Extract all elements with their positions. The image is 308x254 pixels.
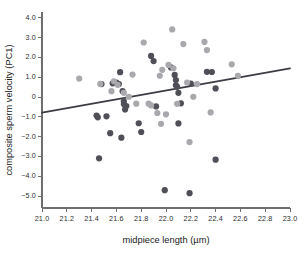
scatter-point: [107, 130, 113, 136]
scatter-point: [76, 75, 82, 81]
scatter-point: [148, 102, 154, 108]
scatter-point: [194, 81, 200, 87]
plot-svg: 21.021.221.421.621.822.022.222.422.622.8…: [0, 0, 308, 254]
y-tick-label: −2.0: [21, 132, 36, 141]
scatter-point: [95, 114, 101, 120]
y-tick-label: −3.0: [21, 151, 36, 160]
scatter-point: [103, 113, 109, 119]
scatter-point: [172, 72, 178, 78]
scatter-point: [136, 120, 142, 126]
x-tick-label: 21.2: [60, 214, 75, 223]
scatter-point: [209, 69, 215, 75]
scatter-point: [186, 190, 192, 196]
scatter-point: [235, 73, 241, 79]
scatter-point: [129, 71, 135, 77]
x-tick-labels: 21.021.221.421.621.822.022.222.422.622.8…: [35, 214, 298, 223]
scatter-point: [169, 26, 175, 32]
y-tick-label: −1.0: [21, 112, 36, 121]
scatter-point: [175, 90, 181, 96]
x-tick-label: 23.0: [283, 214, 298, 223]
scatter-point: [123, 103, 129, 109]
x-tick-label: 22.6: [233, 214, 248, 223]
y-tick-label: 2.0: [26, 52, 36, 61]
scatter-point: [108, 88, 114, 94]
scatter-point: [133, 101, 139, 107]
scatter-point: [174, 84, 180, 90]
scatter-point: [157, 73, 163, 79]
y-tick-labels: 4.03.02.01.00−1.0−2.0−3.0−4.0−5.0: [21, 13, 36, 200]
scatter-point: [141, 39, 147, 45]
scatter-plot-figure: 21.021.221.421.621.822.022.222.422.622.8…: [0, 0, 308, 254]
x-tick-label: 22.2: [184, 214, 199, 223]
scatter-point: [190, 94, 196, 100]
scatter-point: [208, 109, 214, 115]
scatter-point: [204, 47, 210, 53]
y-tick-label: −5.0: [21, 191, 36, 200]
scatter-point: [213, 85, 219, 91]
scatter-point: [229, 61, 235, 67]
axes: [42, 12, 290, 208]
scatter-point: [201, 39, 207, 45]
x-tick-label: 22.8: [258, 214, 273, 223]
x-tick-label: 21.4: [84, 214, 99, 223]
scatter-point: [118, 135, 124, 141]
scatter-point: [213, 157, 219, 163]
scatter-point: [180, 41, 186, 47]
scatter-point: [174, 101, 180, 107]
y-tick-label: 3.0: [26, 33, 36, 42]
y-axis-title: composite sperm velocity (PC1): [4, 44, 14, 175]
scatter-point: [158, 121, 164, 127]
x-tick-label: 21.8: [134, 214, 149, 223]
scatter-point: [115, 82, 121, 88]
scatter-point: [162, 187, 168, 193]
x-tick-label: 21.6: [109, 214, 124, 223]
scatter-point: [186, 139, 192, 145]
y-tick-label: 1.0: [26, 72, 36, 81]
scatter-point: [121, 90, 127, 96]
x-tick-label: 22.4: [208, 214, 223, 223]
scatter-point: [163, 111, 169, 117]
y-tick-label: 4.0: [26, 13, 36, 22]
scatter-point: [175, 120, 181, 126]
scatter-point: [184, 79, 190, 85]
x-axis-title: midpiece length (µm): [123, 235, 210, 245]
trend-line: [42, 68, 290, 112]
regression-line: [42, 68, 290, 112]
scatter-point: [96, 155, 102, 161]
x-tick-label: 22.0: [159, 214, 174, 223]
scatter-point: [154, 110, 160, 116]
y-tick-label: −4.0: [21, 171, 36, 180]
x-tick-label: 21.0: [35, 214, 50, 223]
scatter-point: [117, 69, 123, 75]
scatter-point: [138, 129, 144, 135]
scatter-point: [151, 58, 157, 64]
series-dark_group: [93, 53, 218, 196]
y-tick-label: 0: [32, 92, 36, 101]
data-points: [76, 26, 241, 196]
scatter-point: [159, 67, 165, 73]
scatter-point: [170, 65, 176, 71]
scatter-point: [126, 94, 132, 100]
scatter-point: [97, 81, 103, 87]
